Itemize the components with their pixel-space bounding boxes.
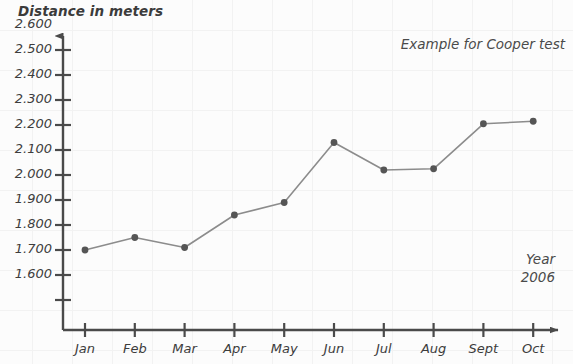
y-axis-tick-label: 1.700: [4, 241, 52, 256]
y-axis-tick-label: 1.600: [4, 266, 52, 281]
data-point-mar: [181, 244, 188, 251]
data-point-jul: [380, 167, 387, 174]
data-point-may: [281, 199, 288, 206]
data-point-apr: [231, 212, 238, 219]
plot-area: [0, 0, 573, 364]
data-point-oct: [530, 118, 537, 125]
data-point-feb: [131, 234, 138, 241]
data-series-line: [85, 121, 533, 250]
y-axis-tick-label: 1.800: [4, 216, 52, 231]
data-point-sept: [480, 120, 487, 127]
y-axis-tick-label: 1.900: [4, 191, 52, 206]
y-axis-tick-label: 2.200: [4, 116, 52, 131]
y-axis-tick-label: 2.600: [4, 16, 52, 31]
x-axis-tick-label: Oct: [503, 341, 563, 356]
y-axis-tick-label: 2.000: [4, 166, 52, 181]
y-axis-tick-label: 2.100: [4, 141, 52, 156]
y-axis-tick-label: 2.400: [4, 66, 52, 81]
data-point-aug: [430, 165, 437, 172]
y-axis-tick-label: 2.300: [4, 91, 52, 106]
y-axis-tick-label: 2.500: [4, 41, 52, 56]
data-point-jun: [331, 139, 338, 146]
cooper-test-line-chart: Distance in meters Example for Cooper te…: [0, 0, 573, 364]
data-point-jan: [82, 247, 89, 254]
